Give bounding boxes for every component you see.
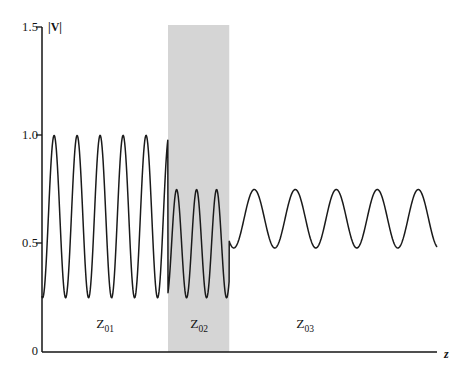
- region-label-z03: Z03: [275, 316, 335, 334]
- y-tick-label-1-0: 1.0: [6, 128, 38, 143]
- y-tick-label-0-5: 0.5: [6, 236, 38, 251]
- region-label-z02-sub: 02: [198, 324, 208, 334]
- region-label-z03-sub: 03: [304, 324, 314, 334]
- region-label-z01-sub: 01: [104, 324, 114, 334]
- plot-canvas: [0, 0, 462, 385]
- x-axis-title: z: [444, 347, 449, 362]
- standing-wave-figure: 1.5 1.0 0.5 0 |V| z Z01 Z02 Z03: [0, 0, 462, 385]
- y-axis-title: |V|: [48, 20, 62, 35]
- plot-background: [0, 0, 462, 385]
- region-label-z01: Z01: [75, 316, 135, 334]
- shaded-region-z02: [168, 25, 229, 352]
- y-tick-label-1-5: 1.5: [6, 20, 38, 35]
- y-tick-label-0: 0: [6, 344, 38, 359]
- region-label-z02: Z02: [169, 316, 229, 334]
